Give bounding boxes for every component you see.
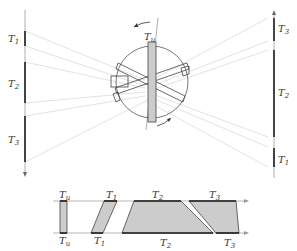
band-bottom-label-t3: T3	[224, 237, 236, 250]
projection-diagram: T1 T2 T3 T3 T2 T1 Tu	[0, 0, 297, 251]
bar-tu	[148, 42, 156, 122]
band-top-label-tu: Tu	[59, 189, 71, 202]
left-label-t2: T2	[8, 78, 20, 91]
band-bottom-label-t1: T1	[94, 235, 105, 248]
band-bottom-label-tu: Tu	[59, 235, 71, 248]
left-label-t3: T3	[8, 134, 20, 147]
right-label-t1: T1	[278, 154, 289, 167]
right-label-t3: T3	[278, 23, 290, 36]
band-top-label-t2: T2	[152, 189, 164, 202]
right-label-t2: T2	[278, 87, 290, 100]
band-diagram: Tu T1 T2 T3 Tu T1 T2 T3	[53, 189, 249, 250]
arrowhead-top	[134, 23, 138, 27]
right-detector: T3 T2 T1	[272, 10, 290, 178]
object-label-tu: Tu	[144, 31, 156, 44]
band-t1	[91, 201, 117, 233]
band-bottom-label-t2: T2	[160, 237, 172, 250]
left-label-t1: T1	[8, 33, 19, 46]
left-detector: T1 T2 T3	[8, 10, 27, 177]
band-top-label-t1: T1	[106, 189, 117, 202]
band-top-label-t3: T3	[209, 189, 221, 202]
band-tu	[60, 201, 67, 233]
